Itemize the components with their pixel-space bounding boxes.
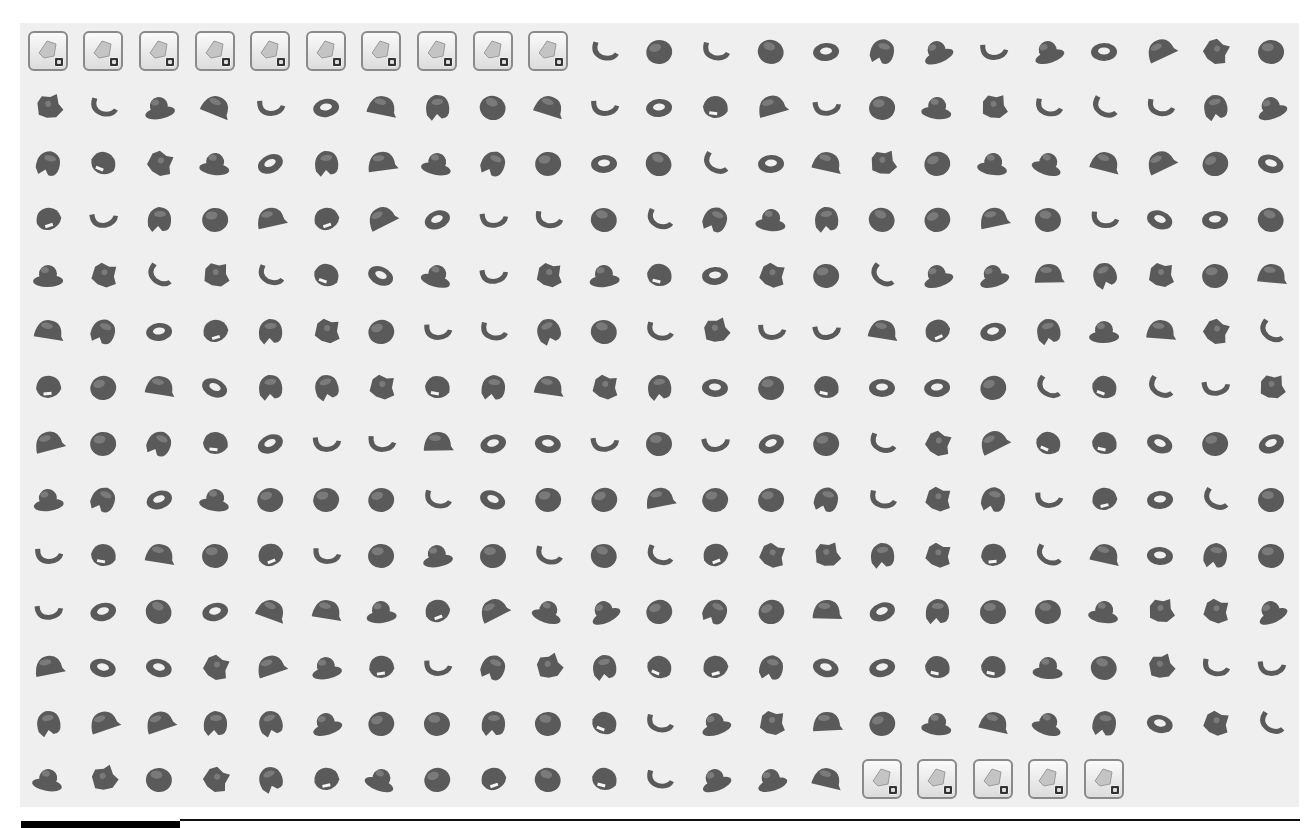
helmet-part-icon[interactable] <box>196 536 234 574</box>
blob-part-icon[interactable] <box>196 256 234 294</box>
helmet-part-icon[interactable] <box>585 200 623 238</box>
helmet-part-icon[interactable] <box>863 200 901 238</box>
blob-part-icon[interactable] <box>752 704 790 742</box>
hat-part-icon[interactable] <box>696 704 734 742</box>
hat-part-icon[interactable] <box>1029 32 1067 70</box>
hat-part-icon[interactable] <box>29 760 67 798</box>
hat-part-icon[interactable] <box>1029 648 1067 686</box>
hat-part-icon[interactable] <box>696 760 734 798</box>
visor-part-icon[interactable] <box>251 536 289 574</box>
ring-part-icon[interactable] <box>1252 144 1290 182</box>
hair-part-icon[interactable] <box>29 144 67 182</box>
hat-part-icon[interactable] <box>918 32 956 70</box>
ring-part-icon[interactable] <box>974 312 1012 350</box>
hook-part-icon[interactable] <box>640 704 678 742</box>
cap-part-icon[interactable] <box>640 480 678 518</box>
hook-part-icon[interactable] <box>140 256 178 294</box>
hat-part-icon[interactable] <box>1029 144 1067 182</box>
cap-part-icon[interactable] <box>140 368 178 406</box>
blob-part-icon[interactable] <box>696 312 734 350</box>
cap-part-icon[interactable] <box>807 704 845 742</box>
helmet-part-icon[interactable] <box>585 312 623 350</box>
helmet-part-icon[interactable] <box>1029 200 1067 238</box>
cap-part-icon[interactable] <box>29 312 67 350</box>
hair-part-icon[interactable] <box>474 144 512 182</box>
hair-part-icon[interactable] <box>251 368 289 406</box>
visor-part-icon[interactable] <box>307 200 345 238</box>
hook-part-icon[interactable] <box>1085 200 1123 238</box>
blob-part-icon[interactable] <box>84 760 122 798</box>
blob-part-icon[interactable] <box>1141 592 1179 630</box>
cap-part-icon[interactable] <box>807 144 845 182</box>
ring-part-icon[interactable] <box>585 144 623 182</box>
cap-part-icon[interactable] <box>974 704 1012 742</box>
ring-part-icon[interactable] <box>1141 704 1179 742</box>
blob-part-icon[interactable] <box>752 256 790 294</box>
cap-part-icon[interactable] <box>1141 32 1179 70</box>
ring-part-icon[interactable] <box>1196 200 1234 238</box>
blob-part-icon[interactable] <box>752 536 790 574</box>
cap-part-icon[interactable] <box>807 760 845 798</box>
blob-part-icon[interactable] <box>1141 256 1179 294</box>
hat-part-icon[interactable] <box>918 88 956 126</box>
hat-part-icon[interactable] <box>974 144 1012 182</box>
helmet-part-icon[interactable] <box>529 144 567 182</box>
cap-part-icon[interactable] <box>1252 256 1290 294</box>
ring-part-icon[interactable] <box>140 480 178 518</box>
ring-part-icon[interactable] <box>84 592 122 630</box>
helmet-part-icon[interactable] <box>640 424 678 462</box>
hat-part-icon[interactable] <box>1252 88 1290 126</box>
hair-part-icon[interactable] <box>585 648 623 686</box>
helmet-part-icon[interactable] <box>140 760 178 798</box>
hair-part-icon[interactable] <box>474 648 512 686</box>
hat-part-icon[interactable] <box>418 536 456 574</box>
visor-part-icon[interactable] <box>696 536 734 574</box>
helmet-part-icon[interactable] <box>696 480 734 518</box>
visor-part-icon[interactable] <box>918 312 956 350</box>
cap-part-icon[interactable] <box>1029 256 1067 294</box>
ring-part-icon[interactable] <box>196 592 234 630</box>
helmet-part-icon[interactable] <box>640 592 678 630</box>
visor-part-icon[interactable] <box>196 312 234 350</box>
hat-part-icon[interactable] <box>529 592 567 630</box>
minifigure-part-category-button[interactable] <box>361 31 401 71</box>
hook-part-icon[interactable] <box>29 592 67 630</box>
helmet-part-icon[interactable] <box>1196 424 1234 462</box>
hat-part-icon[interactable] <box>1029 704 1067 742</box>
helmet-part-icon[interactable] <box>807 256 845 294</box>
hat-part-icon[interactable] <box>1252 592 1290 630</box>
helmet-part-icon[interactable] <box>418 704 456 742</box>
blob-part-icon[interactable] <box>196 648 234 686</box>
hair-part-icon[interactable] <box>1029 312 1067 350</box>
blob-part-icon[interactable] <box>1196 704 1234 742</box>
blob-part-icon[interactable] <box>1252 368 1290 406</box>
ring-part-icon[interactable] <box>696 256 734 294</box>
hook-part-icon[interactable] <box>474 256 512 294</box>
blob-part-icon[interactable] <box>1196 32 1234 70</box>
hat-part-icon[interactable] <box>974 256 1012 294</box>
hook-part-icon[interactable] <box>585 88 623 126</box>
ring-part-icon[interactable] <box>863 648 901 686</box>
ring-part-icon[interactable] <box>84 648 122 686</box>
hair-part-icon[interactable] <box>140 424 178 462</box>
visor-part-icon[interactable] <box>585 704 623 742</box>
blob-part-icon[interactable] <box>29 88 67 126</box>
visor-part-icon[interactable] <box>474 760 512 798</box>
hat-part-icon[interactable] <box>307 648 345 686</box>
visor-part-icon[interactable] <box>29 200 67 238</box>
cap-part-icon[interactable] <box>1141 144 1179 182</box>
blob-part-icon[interactable] <box>585 368 623 406</box>
hook-part-icon[interactable] <box>251 88 289 126</box>
cap-part-icon[interactable] <box>362 144 400 182</box>
hat-part-icon[interactable] <box>196 480 234 518</box>
helmet-part-icon[interactable] <box>474 536 512 574</box>
hook-part-icon[interactable] <box>1252 648 1290 686</box>
hair-part-category-button[interactable] <box>1028 759 1068 799</box>
ring-part-icon[interactable] <box>752 424 790 462</box>
cap-part-icon[interactable] <box>251 592 289 630</box>
helmet-part-icon[interactable] <box>918 144 956 182</box>
helmet-part-icon[interactable] <box>863 88 901 126</box>
hair-part-icon[interactable] <box>974 480 1012 518</box>
visor-part-icon[interactable] <box>1029 424 1067 462</box>
ring-part-icon[interactable] <box>1141 480 1179 518</box>
